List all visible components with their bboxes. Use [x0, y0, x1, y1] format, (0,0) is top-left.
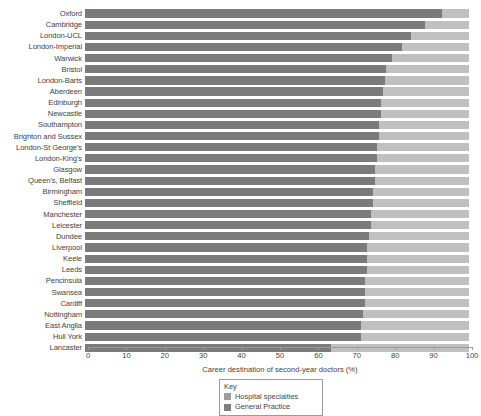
chart-bar-row: Swansea	[0, 287, 481, 298]
bar-category-label: London-UCL	[0, 30, 85, 41]
bar-segment-hospital-specialties	[85, 255, 367, 263]
bar-category-label: Dundee	[0, 231, 85, 242]
x-axis-tick	[318, 347, 319, 350]
legend-item-hospital-specialties: Hospital specialties	[224, 392, 318, 402]
bar-track	[85, 54, 469, 62]
bar-category-label: Brighton and Sussex	[0, 131, 85, 142]
bar-segment-hospital-specialties	[85, 177, 375, 185]
bar-category-label: Warwick	[0, 53, 85, 64]
bar-segment-hospital-specialties	[85, 76, 385, 84]
bar-track	[85, 110, 469, 118]
bar-segment-hospital-specialties	[85, 54, 392, 62]
bar-track	[85, 87, 469, 95]
chart-bar-row: Cardiff	[0, 298, 481, 309]
legend-swatch-icon-general-practice	[224, 404, 231, 411]
bar-category-label: London-Barts	[0, 75, 85, 86]
bar-segment-general-practice	[367, 243, 469, 251]
bar-segment-general-practice	[377, 143, 469, 151]
legend-swatch-icon-hospital-specialties	[224, 393, 231, 400]
bar-segment-hospital-specialties	[85, 9, 442, 17]
bar-segment-hospital-specialties	[85, 188, 373, 196]
bar-category-label: London-King's	[0, 153, 85, 164]
stacked-bar-chart: OxfordCambridgeLondon-UCLLondon-Imperial…	[0, 0, 481, 416]
chart-bar-row: Hull York	[0, 331, 481, 342]
x-axis-tick	[126, 347, 127, 350]
bar-segment-hospital-specialties	[85, 65, 386, 73]
bar-track	[85, 154, 469, 162]
legend-title: Key	[224, 382, 318, 391]
bar-segment-hospital-specialties	[85, 43, 402, 51]
legend-label-general-practice: General Practice	[235, 402, 290, 412]
bar-segment-general-practice	[365, 288, 469, 296]
x-axis-tick-label: 90	[429, 351, 437, 360]
bar-segment-hospital-specialties	[85, 243, 367, 251]
bar-category-label: Birmingham	[0, 186, 85, 197]
chart-bar-row: Southampton	[0, 119, 481, 130]
bar-segment-hospital-specialties	[85, 333, 361, 341]
bar-segment-hospital-specialties	[85, 199, 373, 207]
x-axis-tick-label: 20	[161, 351, 169, 360]
chart-bar-row: East Anglia	[0, 320, 481, 331]
bar-category-label: Pencinsula	[0, 275, 85, 286]
bar-category-label: Aberdeen	[0, 86, 85, 97]
chart-bar-row: Liverpool	[0, 242, 481, 253]
bar-segment-general-practice	[363, 310, 469, 318]
bar-segment-general-practice	[381, 110, 469, 118]
chart-bar-row: London-St George's	[0, 142, 481, 153]
bar-segment-general-practice	[379, 121, 469, 129]
x-axis-tick	[472, 347, 473, 350]
bar-segment-general-practice	[375, 177, 469, 185]
chart-bar-row: Birmingham	[0, 186, 481, 197]
bar-segment-hospital-specialties	[85, 143, 377, 151]
bar-track	[85, 21, 469, 29]
bar-track	[85, 199, 469, 207]
bar-track	[85, 188, 469, 196]
bar-segment-hospital-specialties	[85, 266, 367, 274]
bar-category-label: Swansea	[0, 287, 85, 298]
bar-track	[85, 210, 469, 218]
bar-track	[85, 65, 469, 73]
bar-segment-hospital-specialties	[85, 165, 375, 173]
bar-category-label: Lancaster	[0, 342, 85, 353]
chart-bar-row: London-Imperial	[0, 41, 481, 52]
bar-segment-hospital-specialties	[85, 154, 377, 162]
x-axis-tick	[434, 347, 435, 350]
bar-track	[85, 43, 469, 51]
bar-category-label: Glasgow	[0, 164, 85, 175]
bar-segment-general-practice	[373, 199, 469, 207]
chart-plot-area: OxfordCambridgeLondon-UCLLondon-Imperial…	[0, 8, 481, 353]
bar-track	[85, 121, 469, 129]
x-axis-tick-label: 40	[237, 351, 245, 360]
x-axis-tick-label: 30	[199, 351, 207, 360]
chart-bar-row: Edinburgh	[0, 97, 481, 108]
bar-segment-hospital-specialties	[85, 32, 411, 40]
chart-bar-row: Nottingham	[0, 309, 481, 320]
chart-bar-row: Sheffield	[0, 197, 481, 208]
chart-bar-row: Dundee	[0, 231, 481, 242]
bar-track	[85, 99, 469, 107]
bar-track	[85, 277, 469, 285]
bar-segment-general-practice	[385, 76, 469, 84]
bar-segment-general-practice	[371, 210, 469, 218]
x-axis-tick-label: 100	[466, 351, 479, 360]
bar-segment-general-practice	[381, 99, 469, 107]
bar-segment-hospital-specialties	[85, 99, 381, 107]
bar-track	[85, 143, 469, 151]
bar-segment-general-practice	[402, 43, 469, 51]
x-axis-tick	[395, 347, 396, 350]
bar-segment-general-practice	[367, 255, 469, 263]
bar-track	[85, 165, 469, 173]
chart-bar-row: Queen's, Belfast	[0, 175, 481, 186]
bar-category-label: Liverpool	[0, 242, 85, 253]
bar-segment-general-practice	[361, 333, 469, 341]
legend-label-hospital-specialties: Hospital specialties	[235, 392, 298, 402]
chart-bar-row: Cambridge	[0, 19, 481, 30]
x-axis-label: Career destination of second-year doctor…	[88, 365, 472, 374]
bar-segment-hospital-specialties	[85, 299, 365, 307]
bar-segment-general-practice	[392, 54, 469, 62]
chart-bar-row: Newcastle	[0, 108, 481, 119]
chart-bar-row: Leicester	[0, 220, 481, 231]
chart-bar-row: Bristol	[0, 64, 481, 75]
x-axis-tick	[165, 347, 166, 350]
bar-category-label: Sheffield	[0, 197, 85, 208]
